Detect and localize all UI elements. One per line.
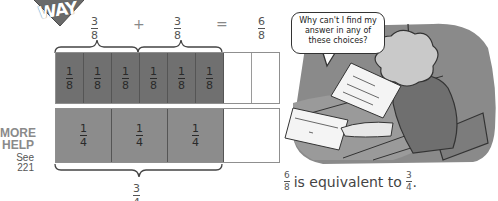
denominator: 8 — [122, 78, 129, 91]
numerator: 1 — [65, 66, 74, 78]
numerator: 3 — [132, 183, 141, 195]
numerator: 1 — [121, 66, 130, 78]
numerator: 1 — [149, 66, 158, 78]
empty-eighth-cell — [252, 53, 279, 103]
more-help-line2: HELP — [0, 139, 34, 151]
eighth-cell: 18 — [168, 53, 196, 103]
numerator: 1 — [177, 66, 186, 78]
eighth-cell: 18 — [84, 53, 112, 103]
denominator: 4 — [406, 181, 412, 192]
numerator: 1 — [93, 66, 102, 78]
plus-sign: + — [133, 16, 145, 32]
more-help-page-ref: See 221 — [0, 153, 34, 173]
quarters-bar: 14 14 14 — [55, 108, 280, 163]
eighth-cell: 18 — [196, 53, 224, 103]
caption-right-fraction: 34 — [405, 171, 413, 192]
more-help-link[interactable]: MORE HELP See 221 — [0, 127, 34, 173]
denominator: 8 — [178, 78, 185, 91]
bottom-brace-icon — [54, 163, 226, 179]
denominator: 4 — [136, 135, 143, 148]
eighth-cell: 18 — [112, 53, 140, 103]
denominator: 4 — [192, 135, 199, 148]
numerator: 1 — [135, 123, 144, 135]
bottom-label-fraction: 34 — [132, 178, 141, 201]
caption-period: . — [413, 174, 417, 190]
numerator: 3 — [405, 171, 413, 181]
speech-line: Why can't I find my — [292, 16, 384, 26]
denominator: 8 — [94, 78, 101, 91]
caption: 68 is equivalent to 34 . — [283, 171, 417, 192]
numerator: 1 — [191, 123, 200, 135]
quarter-cell: 14 — [168, 109, 224, 162]
equation-left-fraction: 38 — [90, 11, 99, 41]
speech-line: answer in any of — [292, 26, 384, 36]
caption-left-fraction: 68 — [283, 171, 291, 192]
denominator: 8 — [150, 78, 157, 91]
numerator: 6 — [283, 171, 291, 181]
equation-right-fraction: 38 — [173, 11, 182, 41]
denominator: 8 — [258, 28, 265, 41]
denominator: 4 — [133, 195, 140, 201]
quarter-cell: 14 — [56, 109, 112, 162]
numerator: 1 — [79, 123, 88, 135]
quarter-cell: 14 — [112, 109, 168, 162]
eighth-cell: 18 — [56, 53, 84, 103]
numerator: 1 — [205, 66, 214, 78]
speech-bubble: Why can't I find my answer in any of the… — [291, 12, 385, 54]
speech-line: these choices? — [292, 36, 384, 46]
empty-eighth-cell — [224, 53, 252, 103]
numerator: 3 — [173, 16, 182, 28]
denominator: 8 — [284, 181, 290, 192]
empty-quarter-cell — [224, 109, 279, 162]
denominator: 4 — [80, 135, 87, 148]
caption-text: is equivalent to — [294, 174, 402, 190]
eighths-bar: 18 18 18 18 18 18 — [55, 52, 280, 104]
numerator: 6 — [257, 16, 266, 28]
eighth-cell: 18 — [140, 53, 168, 103]
denominator: 8 — [206, 78, 213, 91]
denominator: 8 — [66, 78, 73, 91]
logo: WAY — [30, 0, 84, 26]
numerator: 3 — [90, 16, 99, 28]
equation-result-fraction: 68 — [257, 11, 266, 41]
equals-sign: = — [216, 16, 228, 32]
